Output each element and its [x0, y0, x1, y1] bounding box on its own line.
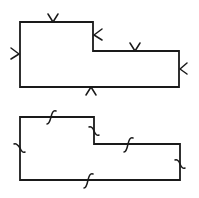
chevron-right-icon: [11, 48, 19, 59]
squiggle-icon: [84, 174, 93, 188]
chevron-left-icon: [94, 29, 102, 40]
polygon-outline: [20, 117, 180, 180]
chevron-down-icon: [130, 43, 140, 51]
squiggle-marked-polygon: [14, 111, 185, 188]
chevron-left-icon: [180, 63, 187, 74]
squiggle-icon: [124, 138, 133, 152]
chevron-marked-polygon: [11, 14, 187, 95]
diagram-canvas: [0, 0, 199, 198]
chevron-down-icon: [48, 14, 58, 22]
chevron-up-icon: [86, 87, 96, 95]
